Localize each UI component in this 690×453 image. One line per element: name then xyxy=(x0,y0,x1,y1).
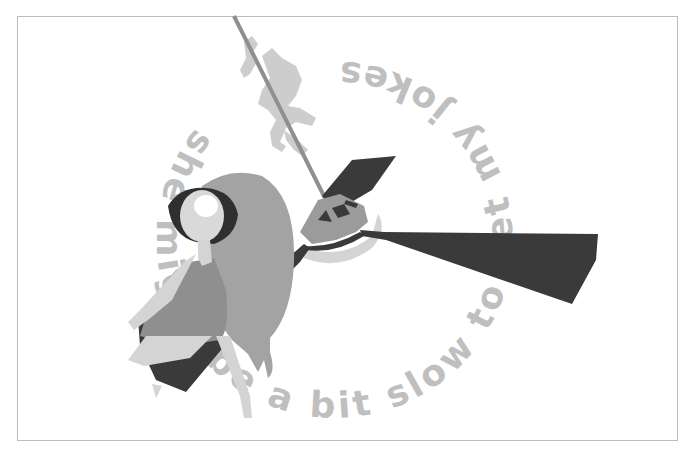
rope xyxy=(234,16,326,200)
face-highlight xyxy=(194,195,218,217)
neck xyxy=(198,240,212,266)
rotor-hub xyxy=(300,194,368,251)
illustration: she might be a bit slow to get my jokes xyxy=(0,0,690,453)
